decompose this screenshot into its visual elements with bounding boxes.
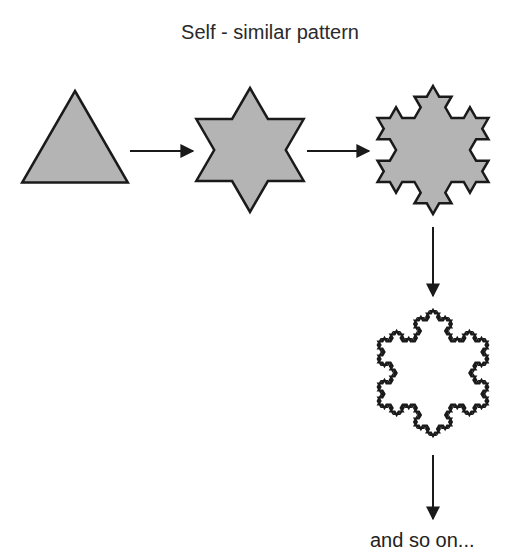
star-shape xyxy=(196,88,303,212)
koch-outline-shape xyxy=(378,310,487,436)
koch-level-2-shape xyxy=(378,86,489,214)
caption-text: and so on... xyxy=(370,529,475,552)
koch-snowflake-diagram xyxy=(0,0,530,555)
arrows xyxy=(130,151,433,519)
triangle-shape xyxy=(22,91,128,183)
fractal-stages xyxy=(22,86,488,436)
